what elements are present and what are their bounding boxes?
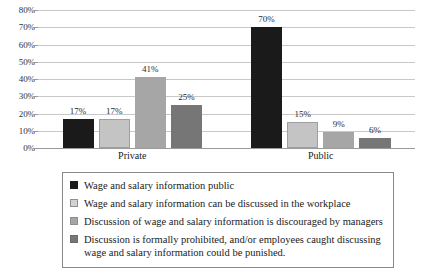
bar <box>171 105 202 148</box>
bar <box>359 138 390 148</box>
bar <box>99 119 130 148</box>
legend-label: Wage and salary information can be discu… <box>84 197 351 210</box>
gridline <box>38 62 415 63</box>
legend-color-swatch <box>70 181 78 189</box>
category-label: Public <box>227 150 416 162</box>
chart-legend: Wage and salary information publicWage a… <box>62 172 394 268</box>
bar <box>323 132 354 148</box>
y-axis-tick-label: 20% <box>1 110 35 119</box>
bar <box>135 77 166 148</box>
y-axis-tick-label: 70% <box>1 23 35 32</box>
legend-color-swatch <box>70 235 78 243</box>
legend-color-swatch <box>70 199 78 207</box>
bar-value-label: 70% <box>243 15 290 24</box>
gridline <box>38 27 415 28</box>
y-axis-tick-label: 60% <box>1 41 35 50</box>
legend-color-swatch <box>70 217 78 225</box>
gridline <box>38 10 415 11</box>
legend-item-list: Wage and salary information publicWage a… <box>70 179 389 264</box>
y-axis-tick-label: 40% <box>1 75 35 84</box>
legend-item: Wage and salary information can be discu… <box>70 197 389 210</box>
gridline <box>38 96 415 97</box>
bar-value-label: 41% <box>127 65 174 74</box>
bar-value-label: 17% <box>91 107 138 116</box>
legend-label: Wage and salary information public <box>84 179 234 192</box>
gridline <box>38 79 415 80</box>
bar-chart: 0%10%20%30%40%50%60%70%80% 17%17%41%25%7… <box>0 0 436 277</box>
bar <box>63 119 94 148</box>
legend-label: Discussion of wage and salary informatio… <box>84 215 383 228</box>
gridline <box>38 45 415 46</box>
bar-value-label: 25% <box>163 93 210 102</box>
y-axis-tick-label: 80% <box>1 6 35 15</box>
y-axis-tick-label: 30% <box>1 92 35 101</box>
y-axis-tick-label: 10% <box>1 127 35 136</box>
bar-value-label: 15% <box>279 110 326 119</box>
y-axis-tick-label: 50% <box>1 58 35 67</box>
axis-baseline <box>38 148 415 149</box>
legend-item: Discussion is formally prohibited, and/o… <box>70 233 389 259</box>
bar <box>251 27 282 148</box>
bar-value-label: 6% <box>351 126 398 135</box>
category-label: Private <box>38 150 227 162</box>
bar <box>287 122 318 148</box>
legend-item: Discussion of wage and salary informatio… <box>70 215 389 228</box>
y-axis-tick-label: 0% <box>1 144 35 153</box>
legend-label: Discussion is formally prohibited, and/o… <box>84 233 381 259</box>
plot-area: 17%17%41%25%70%15%9%6% <box>38 10 415 148</box>
legend-item: Wage and salary information public <box>70 179 389 192</box>
